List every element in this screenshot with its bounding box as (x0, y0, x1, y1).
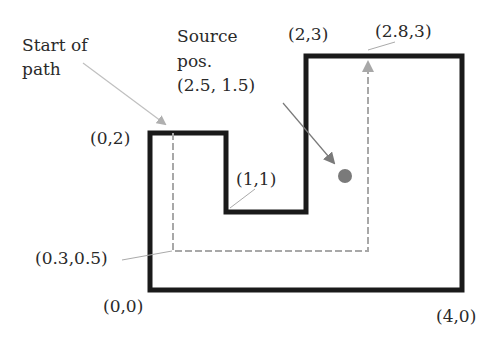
vertex-label-1-1: (1,1) (236, 169, 276, 189)
vertex-label-2-3: (2,3) (288, 24, 328, 44)
leader-1-1 (230, 189, 255, 208)
source-position-dot (338, 169, 352, 183)
start-of-path-arrow (83, 63, 165, 124)
start-of-path-label-2: path (22, 59, 61, 79)
vertex-label-0-0: (0,0) (103, 296, 143, 316)
source-label: Source (177, 26, 238, 46)
leader-2-8-3 (368, 42, 395, 50)
vertex-label-0-2: (0,2) (90, 128, 130, 148)
room-path-diagram: Start of path Source pos. (2.5, 1.5) (0,… (0, 0, 494, 342)
vertex-label-2-8-3: (2.8,3) (375, 21, 432, 41)
leader-0-3-0-5 (122, 251, 172, 260)
vertex-label-0-3-0-5: (0.3,0.5) (35, 248, 108, 268)
source-label-2: pos. (177, 51, 212, 71)
source-label-3: (2.5, 1.5) (177, 75, 255, 95)
vertex-label-4-0: (4,0) (436, 306, 476, 326)
start-of-path-label: Start of (22, 35, 89, 55)
